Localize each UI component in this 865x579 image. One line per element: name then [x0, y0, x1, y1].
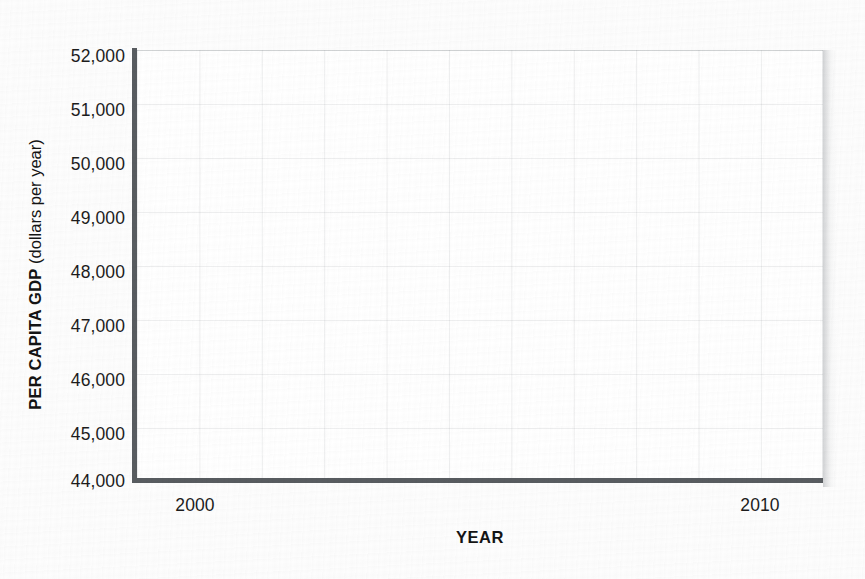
- x-axis-tick-labels: 2000 2010: [0, 0, 865, 579]
- x-tick-label: 2000: [175, 497, 214, 515]
- y-axis-line: [132, 48, 137, 483]
- y-axis-title: PER CAPITA GDP (dollars per year): [26, 65, 45, 485]
- x-axis-line: [132, 478, 823, 483]
- chart-figure: 52,000 51,000 50,000 49,000 48,000 47,00…: [0, 0, 865, 579]
- y-axis-title-bold: PER CAPITA GDP: [26, 269, 44, 410]
- x-tick-label: 2010: [740, 497, 779, 515]
- y-axis-title-units: (dollars per year): [26, 139, 44, 268]
- x-axis-title: YEAR: [137, 528, 823, 547]
